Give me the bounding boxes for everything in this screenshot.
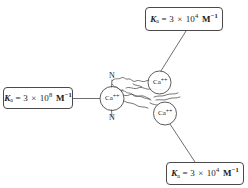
element-symbol: Ca xyxy=(105,94,113,102)
figure-canvas: Ka = 3 × 108 M−1 Ka = 3 × 104 M−1 Ka = 3… xyxy=(0,0,248,188)
ka-symbol: Ka xyxy=(150,13,159,23)
ka-symbol: Ka xyxy=(4,92,13,102)
equals-sign: = xyxy=(16,92,21,102)
coefficient: 3 xyxy=(23,92,28,102)
binding-constant-expression-low-affinity-top: Ka = 3 × 104 M−1 xyxy=(150,14,218,23)
callout-high-affinity[interactable]: Ka = 3 × 108 M−1 xyxy=(3,87,73,109)
equals-sign: = xyxy=(183,168,188,178)
power-of-ten: 104 xyxy=(186,13,199,23)
molarity-unit: M−1 xyxy=(222,168,239,178)
charge-superscript: ++ xyxy=(166,108,172,114)
power-of-ten: 108 xyxy=(40,92,53,102)
element-symbol: Ca xyxy=(153,78,161,86)
nitrogen-label-bottom: N xyxy=(107,114,117,122)
nitrogen-label-top: N xyxy=(107,72,117,80)
callout-low-affinity-top[interactable]: Ka = 3 × 104 M−1 xyxy=(145,7,223,31)
charge-superscript: ++ xyxy=(113,93,119,99)
equals-sign: = xyxy=(162,13,167,23)
ca-ion-label-upper-right: Ca++ xyxy=(148,79,172,86)
ca-ion-label-lower-right: Ca++ xyxy=(153,110,177,117)
element-symbol: Ca xyxy=(158,109,166,117)
ka-symbol: Ka xyxy=(171,168,180,178)
ca-ion-label-left: Ca++ xyxy=(99,95,125,102)
molarity-unit: M−1 xyxy=(201,13,218,23)
leader-line-low-affinity-bottom xyxy=(168,121,195,162)
coefficient: 3 xyxy=(169,13,174,23)
charge-superscript: ++ xyxy=(161,77,167,83)
molarity-unit: M−1 xyxy=(55,92,72,102)
binding-constant-expression-high-affinity: Ka = 3 × 108 M−1 xyxy=(4,93,72,102)
coefficient: 3 xyxy=(190,168,195,178)
multiplication-sign: × xyxy=(30,92,37,102)
binding-constant-expression-low-affinity-bottom: Ka = 3 × 104 M−1 xyxy=(171,169,239,178)
multiplication-sign: × xyxy=(176,13,183,23)
multiplication-sign: × xyxy=(197,168,204,178)
power-of-ten: 104 xyxy=(207,168,220,178)
callout-low-affinity-bottom[interactable]: Ka = 3 × 104 M−1 xyxy=(166,162,244,185)
